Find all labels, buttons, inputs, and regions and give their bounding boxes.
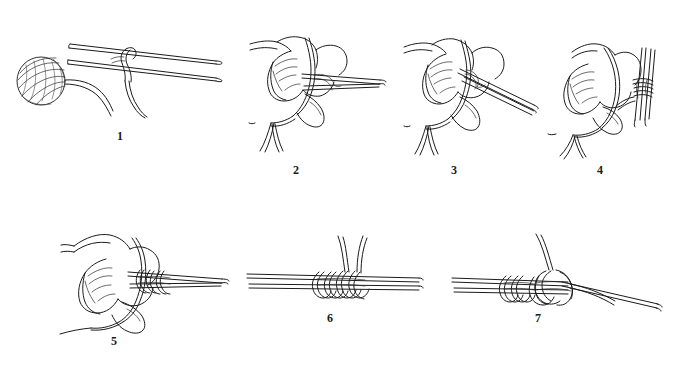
step-caption-7: 7	[528, 312, 548, 324]
step-caption-1: 1	[110, 130, 130, 142]
yarn-tail-right	[570, 284, 615, 305]
step-4-drawing	[548, 24, 672, 164]
illustration-sheet: 1	[0, 0, 684, 366]
two-needles	[247, 274, 423, 290]
left-hand	[250, 37, 347, 101]
step-7-drawing	[450, 228, 668, 312]
yarn-strands	[249, 123, 283, 152]
yarn-over-finger	[573, 48, 635, 137]
step-panel-6: 6	[245, 228, 425, 312]
step-caption-6: 6	[320, 312, 340, 324]
step-panel-7: 7	[450, 228, 668, 312]
two-needles	[128, 272, 229, 288]
step-3-drawing	[404, 24, 540, 164]
yarn-over-finger	[271, 38, 315, 126]
yarn-ends	[338, 236, 367, 273]
step-panel-1: 1	[8, 18, 234, 128]
working-yarn	[536, 234, 553, 270]
needle-lower	[68, 60, 222, 82]
yarn-strands	[404, 126, 438, 155]
thumb	[593, 107, 622, 134]
yarn-over-finger	[426, 40, 471, 129]
working-yarn	[65, 80, 113, 116]
yarn-ball	[17, 57, 65, 105]
two-needles	[452, 278, 662, 311]
step-2-drawing	[248, 24, 384, 164]
yarn-tail	[125, 81, 147, 118]
step-caption-2: 2	[286, 164, 306, 176]
step-panel-4: 4	[548, 24, 672, 164]
step-panel-2: 2	[248, 24, 384, 164]
step-caption-3: 3	[444, 164, 464, 176]
step-panel-3: 3	[404, 24, 540, 164]
two-needles	[458, 69, 538, 115]
step-caption-4: 4	[590, 164, 610, 176]
step-panel-5: 5	[60, 215, 230, 335]
step-5-drawing	[60, 215, 230, 335]
needle-upper	[69, 44, 222, 64]
yarn-top-strand-b	[61, 251, 74, 252]
yarn-top-strand	[61, 245, 74, 246]
step-caption-5: 5	[104, 335, 124, 347]
yarn-strands	[548, 134, 586, 159]
last-loop	[529, 270, 572, 305]
thumb	[451, 97, 480, 130]
step-6-drawing	[245, 228, 425, 312]
left-hand	[564, 44, 641, 114]
left-hand	[74, 234, 159, 314]
step-1-drawing	[8, 18, 234, 128]
